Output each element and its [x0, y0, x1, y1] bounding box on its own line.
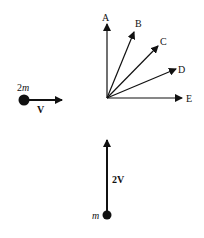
vector-c-label: C	[160, 36, 167, 47]
vector-e-label: E	[186, 93, 192, 104]
particle-left: 2m V	[17, 82, 62, 115]
mass-m-label: m	[92, 210, 99, 221]
vector-b-label: B	[135, 18, 142, 29]
vector-a-label: A	[102, 12, 110, 23]
mass-2m-label: 2m	[17, 82, 29, 93]
particle-left-ball	[19, 95, 30, 106]
particle-bottom: m 2V	[92, 140, 125, 221]
vector-d-label: D	[178, 64, 185, 75]
velocity-v-label: V	[37, 104, 45, 115]
answer-vectors: A B C D E	[102, 12, 192, 104]
velocity-2v-label: 2V	[112, 174, 125, 185]
vector-c-arrow	[107, 46, 158, 98]
diagram-canvas: A B C D E 2m V m 2V	[0, 0, 204, 238]
